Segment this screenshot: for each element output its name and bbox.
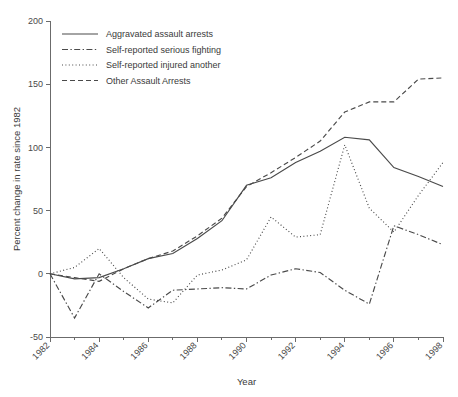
x-tick-label: 1994 [325, 340, 346, 361]
x-axis-ticks: 198219841986198819901992199419961998 [30, 337, 444, 362]
legend-label: Other Assault Arrests [106, 76, 191, 86]
y-tick-label: 200 [28, 16, 43, 26]
x-tick-label: 1996 [374, 340, 395, 361]
x-axis-title: Year [237, 376, 256, 387]
x-tick-label: 1986 [128, 340, 149, 361]
y-tick-label: -50 [30, 332, 43, 342]
series-line [50, 145, 443, 303]
y-tick-label: 50 [33, 206, 43, 216]
legend-label: Self-reported injured another [106, 60, 221, 70]
series-lines [50, 78, 443, 318]
legend-label: Self-reported serious fighting [106, 45, 221, 55]
x-tick-label: 1988 [178, 340, 199, 361]
y-tick-label: 100 [28, 143, 43, 153]
x-tick-label: 1984 [79, 340, 100, 361]
x-tick-label: 1990 [227, 340, 248, 361]
x-tick-label: 1992 [276, 340, 297, 361]
chart-legend: Aggravated assault arrestsSelf-reported … [62, 29, 221, 85]
y-axis-group: -50050100150200 Percent change in rate s… [11, 16, 50, 342]
series-line [50, 226, 443, 318]
y-axis-ticks: -50050100150200 [28, 16, 50, 342]
x-tick-label: 1982 [30, 340, 51, 361]
y-axis-title: Percent change in rate since 1982 [11, 107, 22, 251]
chart-container: -50050100150200 Percent change in rate s… [0, 0, 458, 397]
series-line [50, 78, 443, 282]
series-line [50, 137, 443, 279]
legend-label: Aggravated assault arrests [106, 29, 214, 39]
line-chart: -50050100150200 Percent change in rate s… [0, 0, 458, 397]
x-axis-group: 198219841986198819901992199419961998 Yea… [30, 337, 444, 387]
y-tick-label: 150 [28, 79, 43, 89]
x-tick-label: 1998 [423, 340, 444, 361]
y-tick-label: 0 [38, 269, 43, 279]
